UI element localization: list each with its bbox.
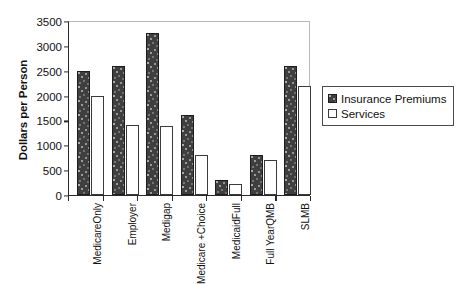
bar-insurance-premiums — [77, 71, 90, 195]
bar-services — [264, 160, 277, 195]
y-axis-title: Dollars per Person — [17, 35, 29, 185]
bar-group — [248, 22, 277, 195]
y-tick-mark — [64, 171, 69, 172]
bar-services — [91, 96, 104, 195]
y-tick-mark — [64, 21, 69, 22]
x-category-label-line: Medicare — [92, 224, 103, 265]
bar-services — [195, 155, 208, 195]
y-tick-label: 500 — [0, 165, 68, 177]
y-tick-label: 2500 — [0, 66, 68, 78]
chart-legend: Insurance Premiums Services — [322, 86, 454, 126]
legend-item-services: Services — [328, 106, 446, 121]
x-category-label-line: Full Year — [265, 226, 276, 265]
bar-insurance-premiums — [250, 155, 263, 195]
legend-swatch-insurance-premiums — [328, 94, 337, 103]
y-tick-label: 1000 — [0, 140, 68, 152]
legend-label-insurance-premiums: Insurance Premiums — [341, 93, 446, 105]
x-category-label-line: Medicaid — [231, 219, 242, 259]
x-category-label-line: Medicare + — [196, 234, 207, 284]
bar-insurance-premiums — [181, 115, 194, 195]
x-category-label-line: Medigap — [161, 203, 172, 241]
bar-group — [110, 22, 139, 195]
x-category-label-line: Choice — [196, 203, 207, 234]
bar-insurance-premiums — [146, 33, 159, 195]
bar-group — [213, 22, 242, 195]
bar-services — [298, 86, 311, 195]
x-tick-mark — [172, 196, 173, 201]
x-tick-mark — [275, 196, 276, 201]
x-tick-mark — [206, 196, 207, 201]
legend-item-insurance-premiums: Insurance Premiums — [328, 91, 446, 106]
y-tick-label: 0 — [0, 190, 68, 202]
x-tick-mark — [241, 196, 242, 201]
y-tick-mark — [64, 146, 69, 147]
x-tick-mark — [103, 196, 104, 201]
y-tick-mark — [64, 71, 69, 72]
bar-group — [75, 22, 104, 195]
bar-group — [179, 22, 208, 195]
bar-services — [160, 126, 173, 195]
x-axis-labels: MedicareOnlyEmployerMedigapMedicare +Cho… — [68, 203, 310, 268]
bar-group — [282, 22, 311, 195]
y-tick-label: 3500 — [0, 16, 68, 28]
y-tick-label: 3000 — [0, 41, 68, 53]
bars-layer — [69, 22, 310, 195]
x-category-label-line: QMB — [265, 203, 276, 226]
x-tick-mark — [310, 196, 311, 201]
bar-services — [229, 184, 242, 195]
y-tick-mark — [64, 96, 69, 97]
x-category-label-line: Full — [231, 203, 242, 219]
x-category-label-line: SLMB — [300, 203, 311, 230]
legend-swatch-services — [328, 109, 337, 118]
bar-insurance-premiums — [112, 66, 125, 195]
y-tick-mark — [64, 46, 69, 47]
bar-services — [126, 125, 139, 195]
x-category-label-line: Only — [92, 203, 103, 224]
x-category-label-line: Employer — [127, 203, 138, 245]
legend-label-services: Services — [341, 108, 385, 120]
x-tick-mark — [68, 196, 69, 201]
x-tick-mark — [137, 196, 138, 201]
plot-area — [68, 22, 310, 196]
y-tick-mark — [64, 121, 69, 122]
bar-insurance-premiums — [284, 66, 297, 195]
bar-insurance-premiums — [215, 180, 228, 195]
y-tick-label: 2000 — [0, 91, 68, 103]
y-tick-label: 1500 — [0, 115, 68, 127]
bar-group — [144, 22, 173, 195]
